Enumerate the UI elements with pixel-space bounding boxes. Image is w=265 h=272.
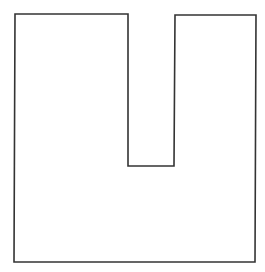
u-shape-diagram [0, 0, 265, 272]
u-shaped-polygon [14, 14, 256, 262]
diagram-canvas [0, 0, 265, 272]
